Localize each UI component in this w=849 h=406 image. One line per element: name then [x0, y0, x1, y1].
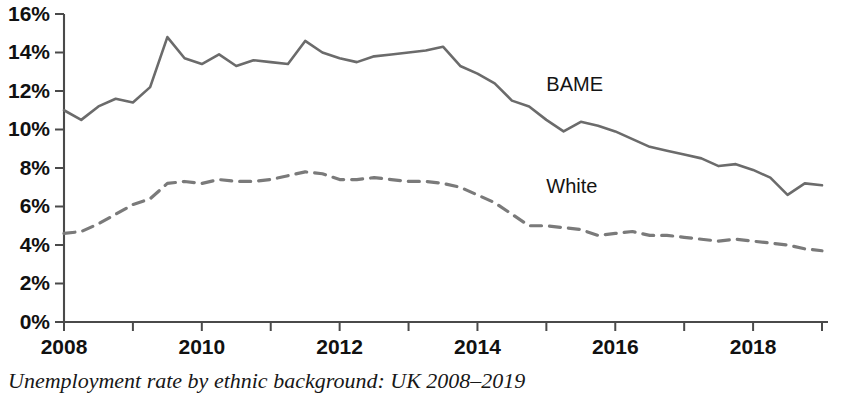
y-tick-label: 16% — [8, 2, 50, 25]
chart-plot-area: 0%2%4%6%8%10%12%14%16% 20082010201220142… — [0, 0, 849, 360]
figure-caption: Unemployment rate by ethnic background: … — [8, 366, 838, 396]
x-tick-label: 2018 — [730, 335, 777, 358]
y-tick-label: 14% — [8, 40, 50, 63]
line-chart: 0%2%4%6%8%10%12%14%16% 20082010201220142… — [0, 0, 849, 360]
y-tick-label: 8% — [20, 156, 51, 179]
x-tick-label: 2012 — [316, 335, 363, 358]
x-tick-label: 2016 — [592, 335, 639, 358]
series-label-white: White — [546, 175, 597, 197]
x-tick-label: 2010 — [178, 335, 225, 358]
y-tick-label: 4% — [20, 233, 51, 256]
y-axis-tick-labels: 0%2%4%6%8%10%12%14%16% — [8, 2, 50, 333]
axis-tick-marks — [55, 14, 822, 331]
y-tick-label: 2% — [20, 271, 51, 294]
y-tick-label: 12% — [8, 79, 50, 102]
x-tick-label: 2014 — [454, 335, 501, 358]
y-tick-label: 6% — [20, 194, 51, 217]
x-axis-tick-labels: 200820102012201420162018 — [41, 335, 777, 358]
figure: 0%2%4%6%8%10%12%14%16% 20082010201220142… — [0, 0, 849, 406]
x-tick-label: 2008 — [41, 335, 88, 358]
series-line-bame — [64, 37, 822, 195]
series-label-bame: BAME — [546, 73, 603, 95]
y-tick-label: 0% — [20, 310, 51, 333]
y-tick-label: 10% — [8, 117, 50, 140]
series-line-white — [64, 172, 822, 251]
